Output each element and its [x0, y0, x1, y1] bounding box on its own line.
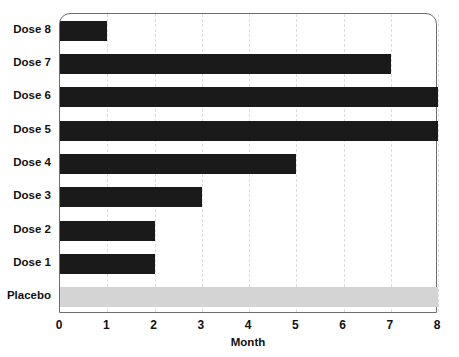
y-axis-label-dose-3: Dose 3 — [13, 189, 51, 202]
bar-row — [60, 121, 436, 141]
gridline — [438, 14, 439, 312]
bar-dose-1 — [60, 254, 155, 274]
bar-dose-7 — [60, 54, 391, 74]
x-axis-tick-labels: 012345678 — [59, 318, 437, 334]
y-axis-label-dose-2: Dose 2 — [13, 223, 51, 236]
y-axis-label-dose-1: Dose 1 — [13, 256, 51, 269]
y-axis-label-dose-7: Dose 7 — [13, 56, 51, 69]
bar-dose-5 — [60, 121, 438, 141]
bar-dose-2 — [60, 221, 155, 241]
chart-screenshot: Dose 8Dose 7Dose 6Dose 5Dose 4Dose 3Dose… — [0, 0, 459, 357]
bar-dose-8 — [60, 21, 107, 41]
y-axis-label-dose-5: Dose 5 — [13, 123, 51, 136]
y-axis-label-dose-8: Dose 8 — [13, 23, 51, 36]
x-tick-1: 1 — [103, 318, 110, 332]
bars-layer — [60, 14, 436, 312]
bar-row — [60, 54, 436, 74]
y-axis-category-labels: Dose 8Dose 7Dose 6Dose 5Dose 4Dose 3Dose… — [0, 13, 55, 313]
bar-row — [60, 187, 436, 207]
bar-dose-3 — [60, 187, 202, 207]
bar-row — [60, 21, 436, 41]
x-tick-5: 5 — [292, 318, 299, 332]
x-tick-4: 4 — [245, 318, 252, 332]
x-tick-0: 0 — [56, 318, 63, 332]
bar-dose-6 — [60, 87, 438, 107]
bar-dose-4 — [60, 154, 296, 174]
bar-row — [60, 221, 436, 241]
x-tick-8: 8 — [434, 318, 441, 332]
bar-row — [60, 154, 436, 174]
x-tick-7: 7 — [386, 318, 393, 332]
bar-placebo — [60, 287, 438, 307]
x-tick-2: 2 — [150, 318, 157, 332]
bar-row — [60, 254, 436, 274]
x-axis-title: Month — [59, 336, 437, 348]
bar-row — [60, 287, 436, 307]
bar-row — [60, 87, 436, 107]
x-tick-6: 6 — [339, 318, 346, 332]
plot-area — [59, 13, 437, 313]
y-axis-label-placebo: Placebo — [7, 289, 51, 302]
x-tick-3: 3 — [197, 318, 204, 332]
y-axis-label-dose-4: Dose 4 — [13, 156, 51, 169]
y-axis-label-dose-6: Dose 6 — [13, 89, 51, 102]
